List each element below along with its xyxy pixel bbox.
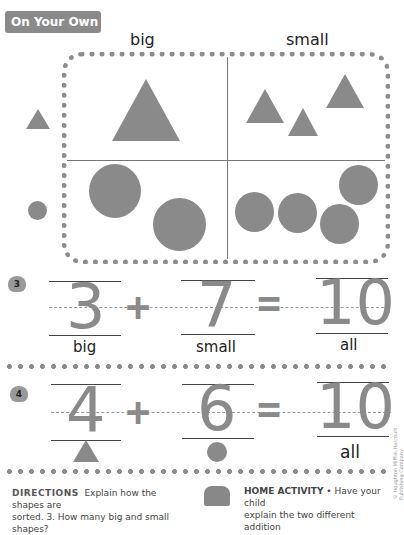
addend-small: 7 [197,274,236,336]
problem-number: 4 [16,389,22,399]
addend-big: 3 [66,276,105,338]
label-big: big [73,338,96,356]
dotted-divider [4,469,389,474]
column-label-big: big [130,30,155,49]
plus-sign: + [126,284,150,330]
home-activity-label: HOME ACTIVITY [244,486,323,496]
problem-number: 3 [14,279,20,289]
small-circle-icon [320,204,359,244]
equals-sign: = [257,280,281,326]
problem-4: 4 4 + 6 = 10 all [0,372,401,472]
big-circle-icon [153,198,206,251]
problem-3: 3 3 + 7 = 10 big small all [0,262,401,362]
small-circle-icon [339,165,378,205]
triangle-hint-icon [73,440,99,462]
row-key-circle-icon [28,201,47,220]
row-key-triangle-icon [26,109,50,129]
column-divider [227,57,228,259]
copyright-notice: © Houghton Mifflin Harcourt Publishing C… [392,420,404,500]
dotted-divider [4,364,389,369]
addend-circle: 6 [197,378,236,440]
home-activity-body-2: explain the two different addition [244,510,355,532]
bird-icon: 4 [10,386,28,402]
big-triangle-icon [112,79,180,141]
label-all: all [340,442,360,462]
row-divider [67,160,385,161]
addend-triangle: 4 [66,380,105,442]
big-circle-icon [89,164,141,218]
directions-body-2: sorted. 3. How many big and small shapes… [12,512,169,534]
sum-all: 10 [316,376,395,438]
label-small: small [196,338,236,356]
plus-sign: + [126,389,150,435]
home-icon [204,486,230,506]
small-triangle-icon [246,89,284,123]
small-circle-icon [278,193,317,233]
directions-text: DIRECTIONS Explain how the shapes are so… [12,487,182,535]
directions-label: DIRECTIONS [12,488,79,498]
tree-icon: 3 [8,276,26,292]
label-all: all [340,336,358,354]
small-triangle-icon [288,108,318,136]
circle-hint-icon [207,442,227,462]
small-circle-icon [235,192,274,232]
equals-sign: = [257,386,281,432]
section-title: On Your Own [5,11,101,33]
column-label-small: small [286,30,329,49]
small-triangle-icon [326,74,364,108]
sum-all: 10 [316,272,395,334]
home-activity-text: HOME ACTIVITY • Have your child explain … [244,485,394,533]
